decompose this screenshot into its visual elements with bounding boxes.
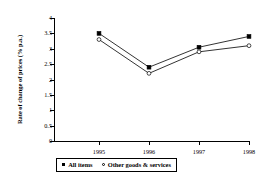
- plot-area: 4 3.5 3 2.5 2 1.5 1 0.5: [54, 18, 250, 141]
- legend-label: All items: [68, 160, 92, 169]
- y-tick-label: 3: [49, 44, 52, 53]
- legend-item-all-items: All items: [62, 160, 93, 169]
- data-point-marker: [97, 38, 101, 42]
- x-tick-label: 1998: [243, 147, 255, 156]
- data-point-marker: [197, 50, 201, 54]
- data-point-marker: [97, 31, 101, 35]
- chart-legend: All items Other goods & services: [56, 158, 177, 172]
- legend-label: Other goods & services: [108, 160, 171, 169]
- x-axis-line: [54, 141, 250, 142]
- series-line-other-goods: [99, 40, 249, 74]
- chart-page: Rate of change of prices (% p.a.) 4 3.5 …: [0, 0, 263, 177]
- y-tick-label: 1.5: [44, 90, 52, 99]
- x-tick-mark: [99, 141, 100, 145]
- y-tick-label: 1: [49, 105, 52, 114]
- series-markers-other-goods: [97, 38, 251, 76]
- filled-square-icon: [62, 163, 65, 166]
- data-point-marker: [147, 71, 151, 75]
- x-tick-label: 1996: [143, 147, 155, 156]
- y-tick-label: 3.5: [44, 28, 52, 37]
- data-point-marker: [197, 45, 201, 49]
- y-tick-label: 0: [49, 136, 52, 145]
- x-tick-mark: [199, 141, 200, 145]
- y-tick-label: 4: [49, 13, 52, 22]
- y-tick-label: 2: [49, 75, 52, 84]
- series-plot: [54, 18, 250, 141]
- y-tick-label: 2.5: [44, 59, 52, 68]
- x-tick-mark: [149, 141, 150, 145]
- series-line-all-items: [99, 33, 249, 67]
- open-circle-icon: [102, 163, 105, 166]
- x-tick-mark: [249, 141, 250, 145]
- data-point-marker: [247, 35, 251, 39]
- series-markers-all-items: [97, 31, 251, 69]
- legend-item-other-goods: Other goods & services: [102, 160, 171, 169]
- data-point-marker: [147, 65, 151, 69]
- y-tick-label: 0.5: [44, 121, 52, 130]
- x-tick-label: 1995: [93, 147, 105, 156]
- x-tick-label: 1997: [193, 147, 205, 156]
- y-axis-title: Rate of change of prices (% p.a.): [14, 18, 26, 141]
- data-point-marker: [247, 44, 251, 48]
